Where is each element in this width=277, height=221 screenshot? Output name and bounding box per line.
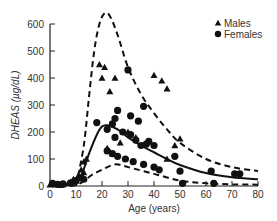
female-point bbox=[104, 126, 111, 133]
x-tick-label: 20 bbox=[96, 189, 108, 200]
y-axis-title: DHEAS (µg/dL) bbox=[10, 70, 21, 139]
female-point bbox=[114, 153, 121, 160]
male-point bbox=[158, 77, 165, 83]
x-tick-label: 10 bbox=[70, 189, 82, 200]
female-point bbox=[122, 155, 129, 162]
y-tick-label: 0 bbox=[38, 181, 44, 192]
y-tick-label: 400 bbox=[27, 73, 44, 84]
legend-triangle-icon bbox=[215, 20, 221, 26]
female-point bbox=[179, 180, 186, 187]
data-points bbox=[47, 61, 244, 188]
y-tick-label: 200 bbox=[27, 127, 44, 138]
female-point bbox=[156, 166, 163, 173]
female-point bbox=[140, 103, 147, 110]
female-point bbox=[135, 118, 142, 125]
female-point bbox=[145, 138, 152, 145]
x-tick-label: 0 bbox=[47, 189, 53, 200]
male-point bbox=[177, 135, 184, 141]
female-point bbox=[208, 168, 215, 175]
male-point bbox=[164, 85, 171, 91]
y-tick-label: 600 bbox=[27, 19, 44, 30]
female-point bbox=[127, 131, 134, 138]
female-point bbox=[132, 137, 139, 144]
x-axis-title: Age (years) bbox=[128, 203, 180, 214]
female-point bbox=[127, 112, 134, 119]
x-tick-label: 80 bbox=[252, 189, 264, 200]
female-point bbox=[111, 134, 118, 141]
female-point bbox=[236, 170, 243, 177]
female-point bbox=[210, 180, 217, 187]
x-tick-label: 40 bbox=[148, 189, 160, 200]
x-tick-label: 30 bbox=[122, 189, 134, 200]
female-point bbox=[59, 180, 66, 187]
x-tick-label: 70 bbox=[226, 189, 238, 200]
legend-circle-icon bbox=[215, 31, 221, 37]
male-point bbox=[96, 61, 103, 67]
chart-canvas: 010020030040050060001020304050607080 Mal… bbox=[0, 0, 277, 221]
female-point bbox=[130, 158, 137, 165]
y-tick-label: 500 bbox=[27, 46, 44, 57]
x-tick-label: 50 bbox=[174, 189, 186, 200]
female-point bbox=[114, 107, 121, 114]
female-point bbox=[176, 168, 183, 175]
male-point bbox=[106, 88, 113, 94]
dheas-age-chart: 010020030040050060001020304050607080 Mal… bbox=[0, 0, 277, 221]
female-point bbox=[119, 128, 126, 135]
male-point bbox=[151, 72, 158, 78]
male-point bbox=[117, 139, 124, 145]
x-tick-label: 60 bbox=[200, 189, 212, 200]
legend-label: Males bbox=[224, 18, 251, 29]
male-point bbox=[112, 75, 119, 81]
male-point bbox=[171, 142, 178, 148]
legend: MalesFemales bbox=[215, 18, 263, 40]
female-point bbox=[140, 161, 147, 168]
female-point bbox=[124, 66, 131, 73]
y-tick-label: 100 bbox=[27, 154, 44, 165]
male-point bbox=[99, 75, 106, 81]
female-point bbox=[109, 120, 116, 127]
female-point bbox=[171, 153, 178, 160]
female-point bbox=[93, 119, 100, 126]
legend-label: Females bbox=[224, 29, 262, 40]
y-tick-label: 300 bbox=[27, 100, 44, 111]
female-point bbox=[80, 176, 87, 183]
